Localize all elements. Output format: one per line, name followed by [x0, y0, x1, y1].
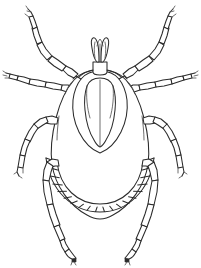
leg-pair-2-right [127, 71, 198, 92]
tick-drawing-canvas [0, 0, 201, 268]
capitulum-head [79, 38, 121, 77]
leg-pair-1-right [123, 6, 176, 78]
leg-pair-2-left [3, 71, 74, 92]
tick-illustration [0, 0, 201, 268]
leg-pair-1-left [25, 6, 78, 78]
